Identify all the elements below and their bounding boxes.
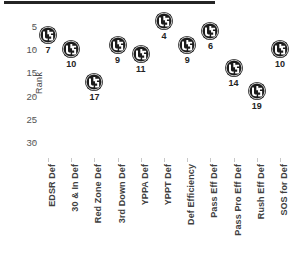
x-tick-mark-5	[164, 158, 165, 162]
data-point-pass-eff-def[interactable]: 6	[201, 21, 220, 40]
data-point-value-label: 17	[89, 91, 99, 102]
team-logo-icon	[39, 26, 58, 45]
data-point-value-label: 14	[229, 77, 239, 88]
x-axis-label-yppt-def: YPPT Def	[163, 164, 173, 205]
rank-scatter-chart: Rank 51015202530 71017911496141910 EDSR …	[0, 0, 294, 263]
x-axis-label-pass-pro-eff-def: Pass Pro Eff Def	[233, 164, 243, 236]
data-point-yppt-def[interactable]: 4	[155, 12, 174, 31]
x-axis-label-3rd-down-def: 3rd Down Def	[117, 164, 127, 223]
x-tick-mark-8	[234, 158, 235, 162]
x-tick-mark-4	[141, 158, 142, 162]
team-logo-icon	[155, 12, 174, 31]
x-axis-label-yppa-def: YPPA Def	[140, 164, 150, 205]
data-point-value-label: 11	[136, 63, 146, 74]
x-axis-label-pass-eff-def: Pass Eff Def	[209, 164, 219, 218]
data-point-def-efficiency[interactable]: 9	[178, 35, 197, 54]
team-logo-icon	[224, 58, 243, 77]
data-point-rush-eff-def[interactable]: 19	[247, 81, 266, 100]
y-tick-mark-10	[32, 49, 35, 50]
team-logo-icon	[178, 35, 197, 54]
x-tick-mark-9	[257, 158, 258, 162]
data-point-red-zone-def[interactable]: 17	[85, 72, 104, 91]
x-tick-mark-0	[48, 158, 49, 162]
data-point-sos-for-def[interactable]: 10	[271, 40, 290, 59]
team-logo-icon	[85, 72, 104, 91]
x-axis-label-red-zone-def: Red Zone Def	[93, 164, 103, 223]
data-point-value-label: 7	[45, 45, 50, 56]
y-tick-mark-30	[32, 142, 35, 143]
x-tick-mark-2	[94, 158, 95, 162]
x-tick-mark-1	[71, 158, 72, 162]
x-axis-label-edsr-def: EDSR Def	[47, 164, 57, 207]
top-divider-rule	[4, 1, 215, 4]
x-axis-label-def-efficiency: Def Efficiency	[186, 164, 196, 225]
data-point-value-label: 4	[161, 31, 166, 42]
x-axis-label-rush-eff-def: Rush Eff Def	[256, 164, 266, 219]
data-point-30-in-def[interactable]: 10	[62, 40, 81, 59]
team-logo-icon	[62, 40, 81, 59]
team-logo-icon	[108, 35, 127, 54]
y-tick-mark-5	[32, 26, 35, 27]
data-point-value-label: 10	[275, 59, 285, 70]
data-point-yppa-def[interactable]: 11	[131, 44, 150, 63]
data-point-value-label: 19	[252, 100, 262, 111]
data-point-pass-pro-eff-def[interactable]: 14	[224, 58, 243, 77]
data-point-3rd-down-def[interactable]: 9	[108, 35, 127, 54]
y-tick-mark-15	[32, 72, 35, 73]
x-tick-mark-6	[187, 158, 188, 162]
y-tick-mark-25	[32, 118, 35, 119]
data-point-value-label: 9	[185, 54, 190, 65]
data-point-value-label: 9	[115, 54, 120, 65]
x-tick-mark-7	[210, 158, 211, 162]
x-axis-label-sos-for-def: SOS for Def	[279, 164, 289, 216]
plot-area: Rank 51015202530 71017911496141910 EDSR …	[36, 8, 294, 158]
team-logo-icon	[271, 40, 290, 59]
x-tick-mark-10	[280, 158, 281, 162]
team-logo-icon	[247, 81, 266, 100]
data-point-edsr-def[interactable]: 7	[39, 26, 58, 45]
team-logo-icon	[131, 44, 150, 63]
x-axis-label-30-in-def: 30 & In Def	[70, 164, 80, 212]
y-tick-mark-20	[32, 95, 35, 96]
data-point-value-label: 10	[66, 59, 76, 70]
team-logo-icon	[201, 21, 220, 40]
data-point-value-label: 6	[208, 40, 213, 51]
x-tick-mark-3	[118, 158, 119, 162]
